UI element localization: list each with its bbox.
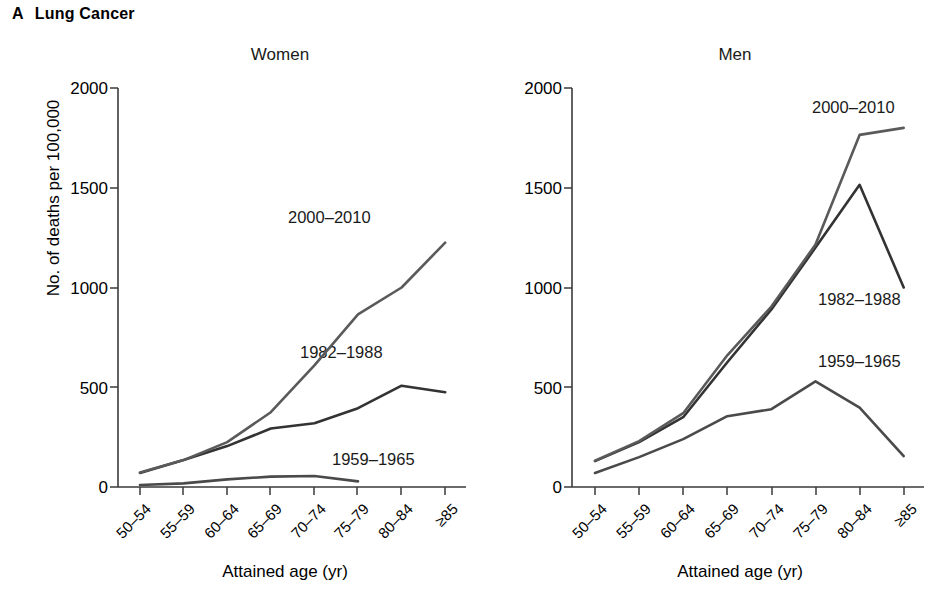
line-1959-1965-men [595, 381, 904, 473]
chart-svg-men [0, 0, 934, 602]
figure-panel-a: ALung Cancer Women No. of deaths per 100… [0, 0, 934, 602]
line-1982-1988-men [595, 185, 904, 461]
line-2000-2010-men [595, 128, 904, 461]
